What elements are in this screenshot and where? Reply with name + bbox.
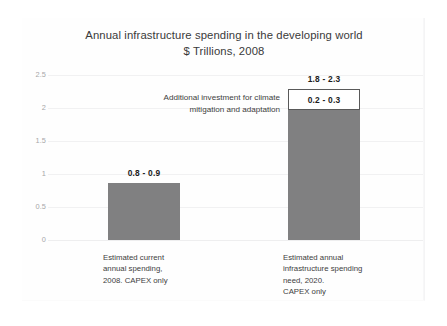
bar-value-label-current: 0.8 - 0.9 [108,168,180,178]
category-label-need-line-1: Estimated annual [283,252,395,263]
y-axis-tick-1: 1 [20,169,46,178]
climate-investment-annotation: Additional investment for climate mitiga… [120,92,280,115]
category-label-infrastructure-need: Estimated annual infrastructure spending… [283,252,395,298]
bar-infrastructure-need[interactable] [288,89,360,240]
annotation-line-2: mitigation and adaptation [120,104,280,116]
category-label-current-line-1: Estimated current [103,252,199,263]
bar-value-label-need: 1.8 - 2.3 [288,74,360,84]
category-label-current-line-3: 2008. CAPEX only [103,275,199,286]
y-axis-tick-2-5: 2.5 [20,70,46,79]
gridline-1-5 [48,141,423,142]
chart-title-line-1: Annual infrastructure spending in the de… [85,29,362,41]
category-label-need-line-3: need, 2020. [283,275,395,286]
category-label-need-line-2: infrastructure spending [283,263,395,274]
bar-segment-climate-investment[interactable]: 0.2 - 0.3 [288,89,360,110]
category-label-current-spending: Estimated current annual spending, 2008.… [103,252,199,286]
chart-title: Annual infrastructure spending in the de… [30,27,418,59]
category-label-current-line-2: annual spending, [103,263,199,274]
chart-title-line-2: $ Trillions, 2008 [30,43,418,59]
gridline-2-5 [48,75,423,76]
chart-slide: Annual infrastructure spending in the de… [0,0,447,326]
y-axis-tick-2: 2 [20,103,46,112]
category-label-need-line-4: CAPEX only [283,286,395,297]
gridline-1 [48,174,423,175]
y-axis-tick-0: 0 [20,235,46,244]
y-axis-tick-0-5: 0.5 [20,202,46,211]
gridline-0-baseline [48,240,423,241]
annotation-line-1: Additional investment for climate [120,92,280,104]
gridline-0-5 [48,207,423,208]
y-axis-tick-1-5: 1.5 [20,136,46,145]
bar-current-spending[interactable] [108,183,180,240]
